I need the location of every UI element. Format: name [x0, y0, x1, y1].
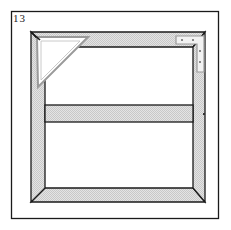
screw-hole [181, 39, 183, 41]
nail-mark [203, 113, 205, 115]
triangular-corner-brace [37, 37, 88, 87]
frame-bottom-rail [31, 188, 205, 202]
screw-hole [199, 50, 201, 52]
screw-hole [192, 39, 194, 41]
screw-hole [199, 61, 201, 63]
figure-number: 13 [13, 13, 26, 24]
l-corner-plate [176, 36, 204, 72]
crossbar [45, 105, 193, 122]
frame-diagram [0, 0, 231, 230]
